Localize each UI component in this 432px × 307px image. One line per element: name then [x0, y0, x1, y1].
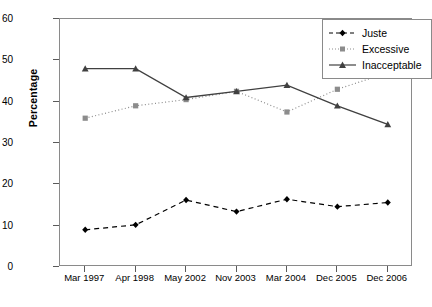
- data-point-marker: [133, 103, 138, 108]
- y-tick-label: 10: [0, 219, 13, 230]
- legend-item-inacceptable: Inacceptable: [329, 57, 422, 73]
- data-point-marker: [284, 109, 289, 114]
- x-tick-label: Dec 2005: [316, 272, 357, 283]
- legend-key-excessive-icon: [329, 43, 356, 55]
- y-tick-label: 50: [0, 54, 13, 65]
- data-point-marker: [334, 203, 340, 209]
- y-tick-mark: [53, 266, 59, 267]
- x-tick-label: Mar 2004: [266, 272, 306, 283]
- data-point-marker: [83, 116, 88, 121]
- legend-key-juste-icon: [329, 27, 356, 39]
- x-tick-label: Apr 1998: [115, 272, 154, 283]
- y-axis-title: Percentage: [27, 43, 39, 153]
- legend-label-excessive: Excessive: [362, 43, 409, 55]
- data-point-marker: [133, 222, 139, 228]
- legend-key-inacceptable-icon: [329, 59, 356, 71]
- data-point-marker: [284, 196, 290, 202]
- legend-label-inacceptable: Inacceptable: [362, 59, 422, 71]
- data-point-marker: [82, 227, 88, 233]
- series-juste: [82, 196, 391, 233]
- chart-legend: Juste Excessive Inacceptable: [322, 19, 432, 79]
- series-line: [85, 73, 388, 118]
- y-tick-label: 0: [0, 261, 13, 272]
- x-tick-label: Dec 2006: [366, 272, 407, 283]
- x-tick-label: Nov 2003: [215, 272, 256, 283]
- legend-item-excessive: Excessive: [329, 41, 422, 57]
- y-tick-label: 30: [0, 137, 13, 148]
- legend-label-juste: Juste: [362, 27, 387, 39]
- y-tick-label: 20: [0, 178, 13, 189]
- y-tick-label: 40: [0, 95, 13, 106]
- data-point-marker: [385, 199, 391, 205]
- data-point-marker: [234, 208, 240, 214]
- data-point-marker: [335, 87, 340, 92]
- x-tick-label: May 2002: [164, 272, 206, 283]
- legend-item-juste: Juste: [329, 25, 422, 41]
- y-tick-label: 60: [0, 13, 13, 24]
- x-tick-label: Mar 1997: [64, 272, 104, 283]
- data-point-marker: [183, 197, 189, 203]
